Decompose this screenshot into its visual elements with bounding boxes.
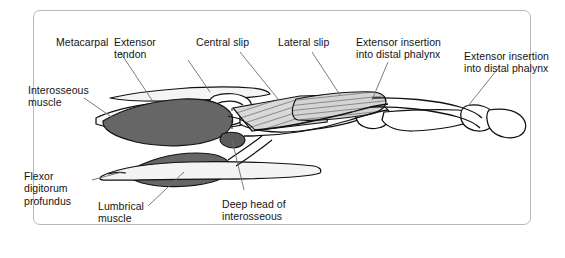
interosseous-muscle <box>103 99 233 146</box>
label-flexor-digitorum-profundus: Flexor digitorum profundus <box>24 170 71 207</box>
flexor-tendon-group <box>100 162 321 181</box>
distal-phalanx <box>487 109 526 138</box>
label-metacarpal: Metacarpal <box>56 36 108 48</box>
label-extensor-insertion-1: Extensor insertion into distal phalynx <box>356 36 441 61</box>
label-extensor-insertion-2: Extensor insertion into distal phalynx <box>464 50 549 75</box>
label-interosseous-muscle: Interosseous muscle <box>28 84 89 109</box>
label-extensor-tendon: Extensor tendon <box>114 36 156 61</box>
label-central-slip: Central slip <box>196 36 249 48</box>
leader-metacarpal <box>120 52 160 112</box>
label-lumbrical-muscle: Lumbrical muscle <box>98 200 144 225</box>
leader-lateral-slip <box>312 52 340 95</box>
label-lateral-slip: Lateral slip <box>278 36 329 48</box>
flexor-digitorum-profundus-tendon <box>100 162 321 181</box>
label-deep-head-of-interosseous: Deep head of interosseous <box>222 198 286 223</box>
